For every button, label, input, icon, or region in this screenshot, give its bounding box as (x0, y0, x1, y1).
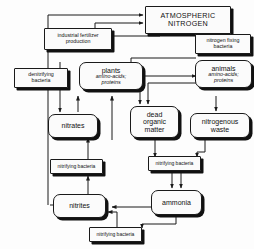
node-ammonia[interactable]: ammonia (151, 190, 202, 215)
node-nitrites[interactable]: nitrites (53, 194, 106, 218)
node-nitrogen-fixing-bacteria[interactable]: nitrogen fixing bacteria (195, 34, 251, 54)
node-dead-organic-matter[interactable]: dead organic matter (130, 106, 179, 138)
node-denitrifying-bacteria[interactable]: denitrifying bacteria (14, 68, 68, 88)
nitrifying-bacteria-middle-label: nitrifying bacteria (156, 161, 194, 166)
node-nitrogenous-waste[interactable]: nitrogenous waste (190, 113, 250, 138)
edge-nitrifying-low-to-nitrites (108, 212, 117, 228)
nitrogen-cycle-diagram: ATMOSPHERIC NITROGEN industrial fertiliz… (0, 0, 254, 249)
nitrogenous-waste-line1: nitrogenous (202, 118, 239, 125)
ammonia-label: ammonia (162, 199, 191, 206)
nitrifying-bacteria-upper-label: nitrifying bacteria (58, 164, 96, 169)
edge-animals-to-dom (148, 83, 196, 104)
dead-organic-matter-line2: organic (143, 118, 166, 125)
node-industrial-fertilizer-production[interactable]: industrial fertilizer production (44, 28, 112, 50)
atmospheric-nitrogen-line2: NITROGEN (168, 20, 208, 28)
nitrites-label: nitrites (69, 202, 90, 209)
nitrogenous-waste-line2: waste (211, 126, 229, 133)
node-atmospheric-nitrogen[interactable]: ATMOSPHERIC NITROGEN (145, 6, 231, 34)
industrial-fertilizer-line2: production (66, 39, 91, 45)
denitrifying-bacteria-line2: bacteria (32, 78, 51, 84)
animals-line3: proteins (214, 78, 233, 84)
dead-organic-matter-line1: dead (147, 111, 163, 118)
edge-waste-to-nitrifying-mid (197, 138, 205, 157)
node-nitrifying-bacteria-upper[interactable]: nitrifying bacteria (50, 159, 103, 174)
node-nitrifying-bacteria-lower[interactable]: nitrifying bacteria (89, 227, 142, 242)
plants-line3: proteins (101, 80, 120, 86)
edge-ammonia-to-nitrifying-low (142, 217, 176, 228)
node-nitrates[interactable]: nitrates (48, 114, 98, 138)
node-animals[interactable]: animals amino-acids; proteins (195, 60, 252, 88)
node-plants[interactable]: plants amino-acids; proteins (79, 62, 143, 90)
nitrates-label: nitrates (62, 122, 85, 129)
nitrogen-fixing-bacteria-line2: bacteria (214, 44, 233, 50)
node-nitrifying-bacteria-middle[interactable]: nitrifying bacteria (148, 156, 201, 171)
nitrifying-bacteria-lower-label: nitrifying bacteria (97, 232, 135, 237)
dead-organic-matter-line3: matter (145, 126, 165, 133)
